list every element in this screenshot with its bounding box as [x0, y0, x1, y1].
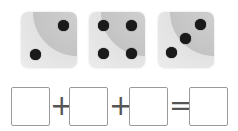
answer-box-result[interactable]	[189, 87, 228, 126]
die-four	[89, 12, 145, 68]
pip	[58, 20, 69, 31]
pip	[98, 20, 109, 31]
answer-box-3[interactable]	[129, 87, 168, 126]
answer-box-2[interactable]	[69, 87, 108, 126]
pip	[195, 19, 206, 30]
die-three	[158, 12, 214, 68]
pip	[126, 48, 137, 59]
pip	[126, 20, 137, 31]
answer-box-1[interactable]	[11, 87, 50, 126]
pip	[30, 49, 41, 60]
die-two	[21, 12, 77, 68]
pip	[166, 47, 177, 58]
pip	[180, 33, 191, 44]
pip	[98, 48, 109, 59]
